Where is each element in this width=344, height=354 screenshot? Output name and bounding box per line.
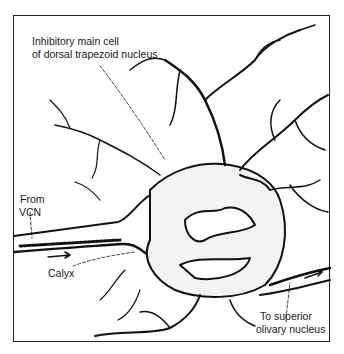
from-vcn-label-line1: From: [20, 193, 45, 206]
from-vcn-label-line2: VCN: [19, 206, 41, 219]
main-cell-label-line1: Inhibitory main cell: [32, 35, 119, 48]
calyx-label: Calyx: [48, 267, 74, 280]
superior-olivary-label-line2: olivary nucleus: [256, 323, 325, 336]
superior-olivary-label-line1: To superior: [260, 310, 312, 323]
main-cell-label-line2: of dorsal trapezoid nucleus: [32, 48, 158, 61]
